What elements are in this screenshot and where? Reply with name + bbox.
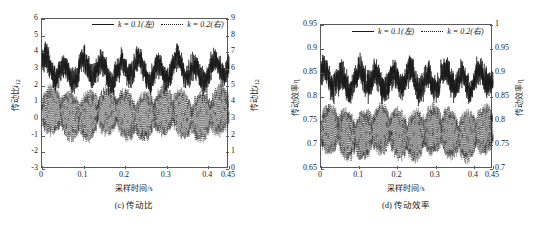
x-tick-label: 0.45 [221,171,235,179]
plot-area-d [320,24,492,168]
y-tick-label-right: 1 [495,20,499,28]
y-axis-title-left-c: 传动比i12 [9,79,22,111]
x-tick-label: 0.1 [78,171,88,179]
x-axis-title-c: 采样时间/s [115,182,152,193]
y-tick-mark-left [42,36,45,37]
panel-d: k = 0.1(左) k = 0.2(右) 传动效率η 传动效率η 采样时间/s… [270,0,540,229]
y-tick-mark-left [42,136,45,137]
y-tick-label-left: -3 [31,164,38,172]
y-tick-mark-left [42,102,45,103]
series-line-solid [42,42,229,97]
y-tick-mark-right [490,145,493,146]
y-tick-label-right: 8 [231,31,235,39]
y-tick-mark-right [490,97,493,98]
x-tick-mark [436,166,437,169]
y-tick-mark-right [226,136,229,137]
y-tick-mark-right [490,73,493,74]
x-tick-label: 0.4 [468,171,478,179]
x-tick-mark [493,166,494,169]
y-tick-mark-right [226,19,229,20]
series-traces-d [321,25,493,169]
y-tick-label-left: 0.65 [303,164,317,172]
legend-line-dotted-icon [161,21,183,27]
legend-label-solid: k = 0.1(左) [118,18,154,29]
y-tick-mark-right [226,119,229,120]
legend-label-dotted: k = 0.2(右) [187,18,223,29]
y-tick-mark-right [226,102,229,103]
y-tick-label-right: 5 [231,81,235,89]
y-tick-mark-left [321,25,324,26]
x-tick-label: 0.4 [202,171,212,179]
legend-label-dotted: k = 0.2(右) [447,25,483,36]
y-tick-mark-left [42,19,45,20]
y-tick-label-right: 0.75 [495,140,509,148]
y-tick-label-right: 0.7 [495,164,505,172]
y-tick-label-left: 0.9 [307,44,317,52]
y-tick-label-left: 0.7 [307,140,317,148]
y-tick-label-left: 5 [34,31,38,39]
y-tick-label-right: 0.95 [495,44,509,52]
legend-item-dotted: k = 0.2(右) [161,18,223,29]
y-tick-mark-right [490,25,493,26]
y-tick-mark-left [42,69,45,70]
y-tick-mark-left [42,86,45,87]
y-tick-label-left: -2 [31,147,38,155]
legend-line-dotted-icon [421,28,443,34]
y-tick-mark-right [226,52,229,53]
y-tick-label-right: 9 [231,14,235,22]
y-tick-mark-left [321,97,324,98]
y-tick-label-right: 4 [231,97,235,105]
y-tick-mark-right [226,152,229,153]
x-tick-mark [229,166,230,169]
x-tick-label: 0 [318,171,322,179]
y-tick-mark-left [42,152,45,153]
x-tick-mark [208,166,209,169]
x-tick-mark [167,166,168,169]
x-tick-mark [397,166,398,169]
x-tick-label: 0.3 [161,171,171,179]
y-tick-mark-left [321,49,324,50]
panel-c: k = 0.1(左) k = 0.2(右) 传动比i12 传动比i12 采样时间… [0,0,270,229]
x-tick-label: 0.3 [430,171,440,179]
x-tick-mark [125,166,126,169]
y-tick-label-left: 0.85 [303,68,317,76]
y-tick-mark-right [226,69,229,70]
y-tick-label-left: -1 [31,131,38,139]
y-tick-label-left: 3 [34,64,38,72]
y-tick-label-right: 0.9 [495,68,505,76]
y-tick-label-right: 2 [231,131,235,139]
y-tick-mark-right [226,36,229,37]
legend-c: k = 0.1(左) k = 0.2(右) [92,18,224,29]
y-tick-label-right: 7 [231,47,235,55]
x-tick-label: 0.1 [353,171,363,179]
y-tick-label-left: 6 [34,14,38,22]
y-tick-label-left: 0.75 [303,116,317,124]
x-tick-mark [474,166,475,169]
y-tick-mark-left [42,52,45,53]
y-tick-label-right: 0 [231,164,235,172]
x-tick-mark [359,166,360,169]
y-tick-label-right: 1 [231,147,235,155]
y-tick-mark-left [321,145,324,146]
y-axis-title-left-d: 传动效率η [289,79,300,115]
plot-area-c [41,18,228,168]
y-tick-mark-left [321,73,324,74]
y-tick-label-right: 6 [231,64,235,72]
legend-label-solid: k = 0.1(左) [378,25,414,36]
series-line-dotted [321,102,493,164]
y-tick-label-left: 1 [34,97,38,105]
panel-caption-c: (c) 传动比 [115,198,154,210]
legend-item-solid: k = 0.1(左) [92,18,154,29]
figure-container: k = 0.1(左) k = 0.2(右) 传动比i12 传动比i12 采样时间… [0,0,540,229]
y-tick-mark-right [226,86,229,87]
series-traces-c [42,19,229,169]
y-tick-mark-left [321,121,324,122]
legend-item-dotted: k = 0.2(右) [421,25,483,36]
y-tick-label-right: 0.85 [495,92,509,100]
x-axis-title-d: 采样时间/s [387,182,424,193]
y-axis-title-right-c: 传动比i12 [248,79,261,111]
legend-d: k = 0.1(左) k = 0.2(右) [352,25,484,36]
x-tick-mark [84,166,85,169]
y-tick-label-right: 0.8 [495,116,505,124]
x-tick-label: 0 [39,171,43,179]
